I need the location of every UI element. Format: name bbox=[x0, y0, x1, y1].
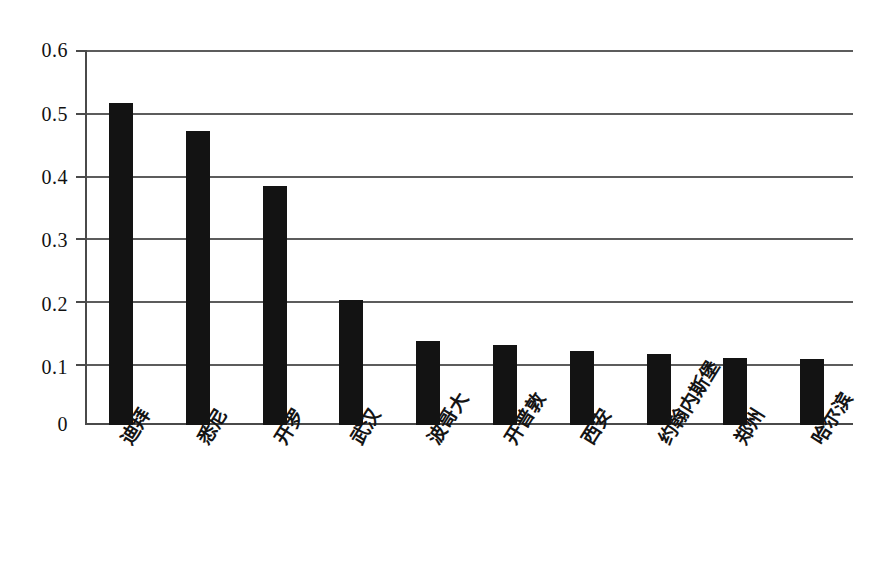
bar bbox=[186, 131, 210, 425]
bars-layer: 迪拜悉尼开罗武汉波哥大开普敦西安约翰内斯堡郑州哈尔滨 bbox=[0, 0, 870, 561]
bar bbox=[263, 186, 287, 425]
bar-chart: 0.6 0.5 0.4 0.3 0.2 0.1 0 迪拜悉尼开罗武汉波哥大开普敦… bbox=[0, 0, 870, 561]
bar bbox=[109, 103, 133, 425]
bar bbox=[339, 300, 363, 425]
bar bbox=[416, 341, 440, 425]
